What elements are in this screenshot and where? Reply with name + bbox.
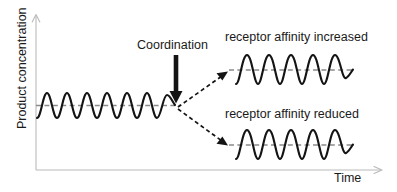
- diagram-canvas: [0, 0, 397, 192]
- branch-arrow-lower: [178, 109, 222, 141]
- wave-upper: [236, 55, 353, 84]
- branch-arrow-upper: [178, 76, 222, 107]
- branch-arrows-group: [178, 72, 228, 146]
- y-axis-label: Product concentration: [16, 0, 29, 136]
- lower-branch-annotation-label: receptor affinity reduced: [225, 108, 359, 121]
- x-axis-label: Time: [334, 172, 361, 185]
- coordination-marker-group: [170, 55, 183, 104]
- wave-lower: [236, 130, 353, 159]
- lower-series-group: [229, 130, 355, 159]
- branch-arrowhead-upper-icon: [217, 72, 229, 81]
- coordination-arrowhead-icon: [170, 91, 183, 104]
- main-series-group: [36, 93, 180, 118]
- upper-series-group: [229, 55, 355, 84]
- concentration-time-diagram: Product concentration Time Coordination …: [0, 0, 397, 192]
- upper-branch-annotation-label: receptor affinity increased: [225, 31, 368, 44]
- coordination-annotation-label: Coordination: [137, 39, 208, 52]
